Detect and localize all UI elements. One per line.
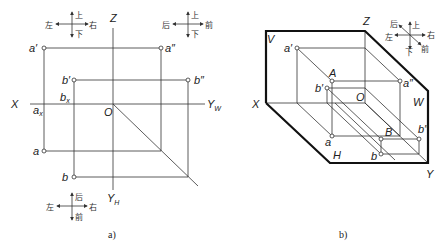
point-b-double-prime [186, 78, 190, 82]
label-bx: bx [60, 91, 70, 104]
label-a-prime: a′ [284, 42, 293, 54]
plane-v-label: V [267, 33, 276, 45]
diagonal-45-line [113, 104, 198, 186]
figure-b-isometric-view: V W H Z X Y O a′ A a″ a b′ B b″ b 上 下 左 … [251, 15, 435, 241]
point-b-prime [325, 86, 329, 90]
direction-compass-w: 上 下 后 前 [162, 11, 213, 39]
label-a: a [33, 145, 39, 157]
y-axis-label: Y [426, 168, 434, 180]
point-a [42, 149, 46, 153]
plane-w-label: W [413, 96, 425, 108]
point-a-prime [295, 46, 299, 50]
caption-b: b) [339, 229, 347, 241]
svg-text:上: 上 [412, 21, 420, 30]
direction-compass-v: 上 下 左 右 [45, 11, 97, 39]
label-b: b [371, 150, 377, 162]
z-axis-label: Z [362, 15, 371, 27]
label-a: a [325, 136, 331, 148]
svg-text:前: 前 [421, 44, 429, 54]
label-b-double-prime: b″ [418, 123, 429, 135]
label-b-double-prime: b″ [194, 74, 205, 86]
point-a-double-prime [398, 79, 402, 83]
point-b-prime [72, 78, 76, 82]
z-axis-label: Z [109, 12, 118, 24]
figure-a-three-view: Z X O YW YH a′ a″ b′ b″ a b ax bx 上 下 左 … [10, 11, 222, 241]
svg-text:后: 后 [390, 19, 398, 29]
svg-text:后: 后 [75, 192, 83, 202]
label-A: A [328, 67, 336, 79]
point-B [379, 137, 383, 141]
x-axis-label: X [10, 98, 19, 110]
svg-text:右: 右 [427, 30, 435, 40]
point-b [72, 175, 76, 179]
label-b: b [62, 171, 68, 183]
caption-a: a) [108, 229, 116, 241]
origin-label: O [104, 106, 113, 118]
yh-axis-label: YH [107, 192, 120, 206]
svg-text:上: 上 [75, 11, 83, 20]
point-b [379, 152, 383, 156]
svg-text:前: 前 [205, 20, 213, 30]
projection-diagrams: Z X O YW YH a′ a″ b′ b″ a b ax bx 上 下 左 … [0, 0, 442, 251]
direction-compass-3d: 上 下 左 右 后 前 [385, 19, 435, 57]
label-B: B [385, 126, 392, 138]
x-axis-label: X [251, 98, 260, 110]
label-a-double-prime: a″ [403, 77, 414, 89]
svg-text:下: 下 [191, 30, 199, 39]
label-b-prime: b′ [315, 82, 324, 94]
label-b-prime: b′ [62, 74, 71, 86]
label-a-prime: a′ [29, 42, 38, 54]
point-b-double-prime [417, 137, 421, 141]
svg-text:左: 左 [46, 202, 54, 212]
svg-text:右: 右 [89, 20, 97, 30]
svg-text:上: 上 [191, 11, 199, 20]
label-ax: ax [33, 104, 43, 117]
svg-text:下: 下 [75, 30, 83, 39]
origin-label: O [356, 91, 365, 103]
svg-text:左: 左 [45, 20, 53, 30]
plane-h-label: H [333, 149, 341, 161]
svg-text:左: 左 [385, 32, 393, 42]
svg-text:下: 下 [405, 48, 413, 57]
point-A [330, 79, 334, 83]
point-a-double-prime [159, 46, 163, 50]
svg-text:前: 前 [75, 212, 83, 222]
svg-text:后: 后 [162, 20, 170, 30]
direction-compass-h: 后 前 左 右 [46, 192, 97, 222]
label-a-double-prime: a″ [165, 42, 176, 54]
yw-axis-label: YW [207, 98, 222, 112]
svg-text:右: 右 [89, 202, 97, 212]
point-a-prime [42, 46, 46, 50]
